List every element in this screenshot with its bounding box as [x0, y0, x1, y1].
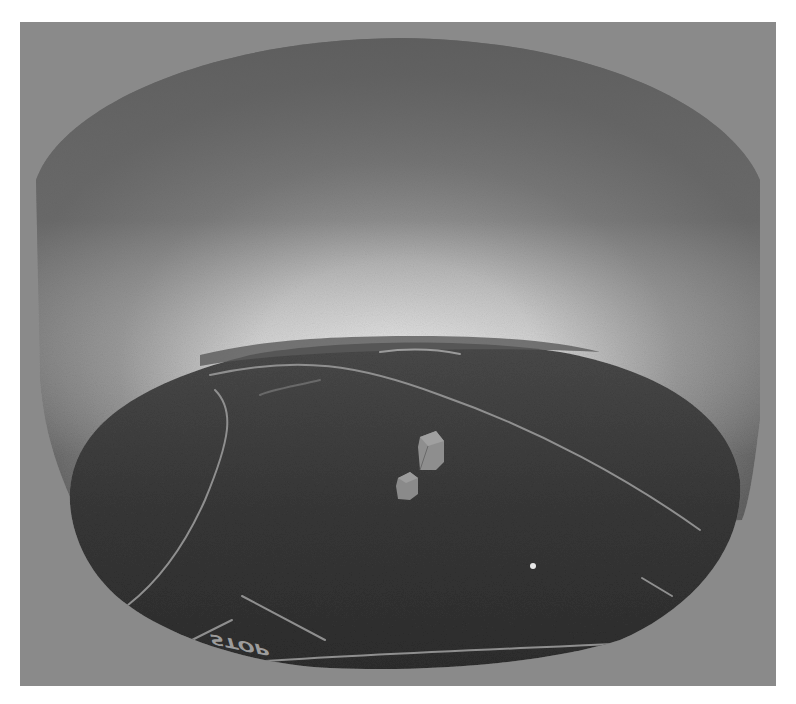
border-top: [0, 0, 796, 22]
border-left: [0, 0, 20, 704]
ground-plane: [70, 336, 741, 669]
border-bottom: [0, 686, 796, 704]
object-box-far: [418, 431, 444, 470]
border-right: [776, 0, 796, 704]
marker-dot: [530, 563, 536, 569]
bowl-scene: STOP: [0, 0, 796, 704]
